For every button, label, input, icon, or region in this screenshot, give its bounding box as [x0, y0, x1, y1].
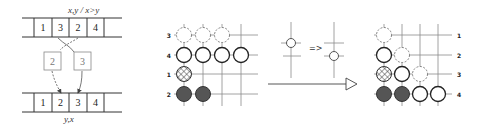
top-array-cell: 3 — [58, 22, 63, 33]
top-array-cell: 1 — [41, 22, 46, 33]
transition-arrow — [268, 78, 357, 90]
transition-arrow-head — [346, 78, 357, 90]
top-array-label: x,y / x>y — [67, 5, 99, 15]
grid-row-label: 4 — [167, 52, 171, 59]
stone-dashed — [215, 28, 230, 43]
stone-dashed — [196, 28, 211, 43]
swap-arrow-2 — [60, 38, 78, 50]
stone-open — [196, 48, 211, 63]
grid-after: 1234 — [374, 24, 461, 106]
bottom-array-cell: 2 — [58, 97, 63, 108]
stone-open — [234, 48, 249, 63]
top-array-cell: 4 — [93, 22, 98, 33]
stone-filled — [177, 87, 192, 102]
down-arrow-2 — [52, 71, 61, 93]
grid-row-label: 3 — [457, 71, 461, 78]
transform-hint: => — [281, 22, 344, 78]
bottom-array-cell: 4 — [93, 97, 98, 108]
grid-before: 3412 — [167, 24, 258, 106]
bottom-array-label: y,x — [63, 114, 74, 124]
grid-row-label: 1 — [167, 71, 171, 78]
diagram-canvas: x,y / x>y 1 3 2 4 2 3 — [0, 0, 480, 125]
top-array: 1 3 2 4 — [22, 18, 122, 37]
grid-row-label: 4 — [457, 91, 461, 98]
stone-filled — [395, 87, 410, 102]
grid-row-label: 2 — [167, 91, 171, 98]
stone-filled — [196, 87, 211, 102]
stone-open — [431, 87, 446, 102]
stone-dashed — [395, 48, 410, 63]
stone-open — [377, 48, 392, 63]
stone-dashed — [177, 28, 192, 43]
grid-row-label: 2 — [457, 52, 461, 59]
top-array-cell: 2 — [76, 22, 81, 33]
stone-open — [215, 48, 230, 63]
grid-row-label: 3 — [167, 32, 171, 39]
floating-box-label: 3 — [80, 56, 85, 67]
stone-dashed — [377, 28, 392, 43]
stone-open — [413, 87, 428, 102]
sort-swap-panel: x,y / x>y 1 3 2 4 2 3 — [22, 5, 122, 124]
grid-row-label: 1 — [457, 32, 461, 39]
stone-hatched — [177, 67, 192, 82]
stone-open — [177, 48, 192, 63]
hint-stone-after — [330, 52, 339, 61]
stone-hatched — [377, 67, 392, 82]
stone-dashed — [413, 67, 428, 82]
stone-open — [395, 67, 410, 82]
bottom-array: 1 2 3 4 — [22, 93, 122, 112]
down-arrow-3 — [78, 71, 82, 93]
bottom-array-cell: 3 — [76, 97, 81, 108]
hint-arrow-text: => — [309, 44, 322, 53]
stone-filled — [377, 87, 392, 102]
hint-stone-before — [287, 39, 296, 48]
floating-box-label: 2 — [50, 56, 55, 67]
bottom-array-cell: 1 — [41, 97, 46, 108]
